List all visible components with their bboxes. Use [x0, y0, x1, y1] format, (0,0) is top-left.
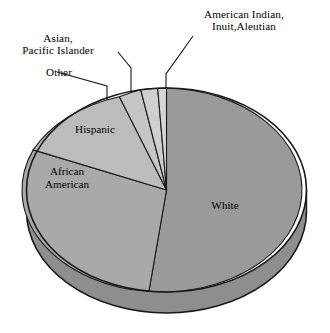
callout-asian-line2: Pacific Islander — [0, 44, 128, 56]
callout-asian-line1: Asian, — [0, 32, 128, 44]
slice-callout-american-indian: American Indian, Inuit,Aleutian — [159, 8, 329, 33]
slice-label-hispanic: Hispanic — [62, 123, 128, 136]
pie-chart: American Indian, Inuit,Aleutian Asian, P… — [0, 0, 330, 333]
slice-label-white: White — [200, 199, 250, 212]
leader-line-american-indian — [166, 36, 193, 89]
callout-other-text: Other — [0, 66, 72, 78]
slice-label-african-line1: African — [31, 165, 103, 178]
slice-label-african-american: African American — [31, 165, 103, 190]
slice-label-white-text: White — [200, 199, 250, 212]
slice-label-african-line2: American — [31, 178, 103, 191]
callout-american-indian-line1: American Indian, — [159, 8, 329, 20]
callout-american-indian-line2: Inuit,Aleutian — [159, 20, 329, 32]
leader-line-asian-pacific-islander — [118, 52, 131, 92]
slice-label-hispanic-text: Hispanic — [62, 123, 128, 136]
slice-callout-asian-pacific-islander: Asian, Pacific Islander — [0, 32, 128, 57]
slice-callout-other: Other — [0, 66, 72, 78]
